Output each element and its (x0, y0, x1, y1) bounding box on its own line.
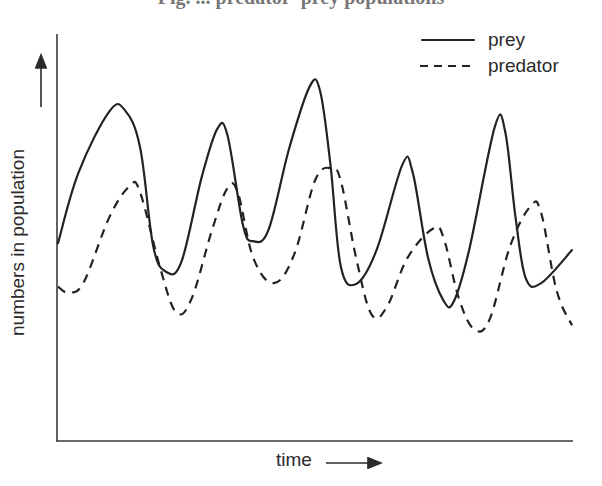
legend-label-predator: predator (488, 56, 559, 75)
series-predator-line (58, 168, 572, 332)
legend-label-prey: prey (488, 30, 525, 49)
series-prey-line (58, 79, 572, 307)
y-axis-label: numbers in population (8, 149, 27, 336)
x-axis-label: time (276, 450, 312, 469)
